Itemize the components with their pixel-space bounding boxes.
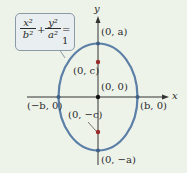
bottom-vertex-label: (0, −a) — [101, 155, 136, 165]
top-vertex-dot — [96, 42, 100, 46]
bottom-vertex-dot — [96, 149, 100, 153]
term2-numerator: y² — [45, 17, 61, 29]
left-vertex-dot — [57, 95, 61, 99]
equals-one: = 1 — [62, 24, 74, 46]
y-axis-arrow-icon — [96, 16, 101, 23]
term2-fraction: y² a² — [45, 17, 61, 40]
center-dot — [96, 95, 100, 99]
focus-pointer — [88, 122, 96, 131]
top-vertex-label: (0, a) — [101, 27, 127, 37]
term1-denominator: b² — [20, 29, 36, 40]
lower-focus-dot — [96, 130, 100, 134]
term2-denominator: a² — [45, 29, 61, 40]
right-vertex-label: (b, 0) — [140, 101, 167, 111]
term1-fraction: x² b² — [20, 17, 36, 40]
equation-callout: x² b² + y² a² = 1 — [15, 13, 75, 51]
lower-focus-label: (0, −c) — [68, 110, 103, 120]
x-axis-label: x — [172, 91, 178, 101]
x-axis-arrow-icon — [162, 95, 169, 100]
left-vertex-label: (−b, 0) — [27, 101, 62, 111]
right-vertex-dot — [136, 95, 140, 99]
upper-focus-label: (0, c) — [73, 66, 99, 76]
term1-numerator: x² — [20, 17, 36, 29]
center-label: (0, 0) — [101, 82, 128, 92]
y-axis-label: y — [94, 4, 100, 14]
upper-focus-dot — [96, 60, 100, 64]
